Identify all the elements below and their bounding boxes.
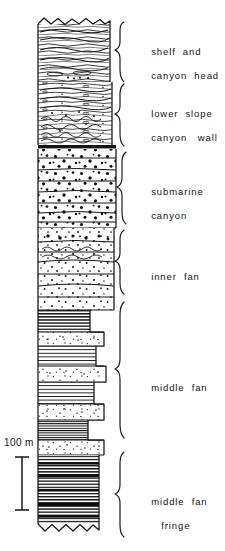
brace-submarine-canyon — [117, 152, 126, 224]
facies-label-line-1: middle fan — [151, 496, 207, 507]
facies-label-lower-slope-canyon-wall: lower slope canyon wall — [137, 96, 218, 156]
brace-middle-fan-fringe — [115, 452, 124, 537]
stratigraphic-figure: 100 m shelf and canyon head lower slope … — [0, 0, 225, 551]
facies-label-line-1: shelf and — [151, 46, 201, 57]
erosional-base-boundary — [38, 524, 99, 531]
facies-brace-group — [115, 22, 126, 537]
facies-label-line-1: middle fan — [151, 382, 207, 393]
facies-body-middle-fan-fringe — [38, 455, 99, 531]
marker-bed-dark — [38, 145, 116, 148]
brace-lower-slope-canyon-wall — [115, 84, 124, 146]
facies-label-line-2: canyon head — [151, 70, 219, 81]
facies-label-line-1: inner fan — [151, 271, 200, 282]
facies-label-line-2: canyon wall — [151, 132, 218, 143]
facies-label-inner-fan: inner fan — [137, 259, 200, 295]
facies-label-shelf-and-canyon-head: shelf and canyon head — [137, 34, 219, 94]
facies-label-submarine-canyon: submarine canyon — [137, 174, 204, 234]
facies-label-middle-fan: middle fan — [137, 370, 208, 406]
facies-label-line-1: lower slope — [151, 108, 213, 119]
facies-label-line-2: canyon — [151, 210, 187, 221]
facies-body-submarine-canyon — [38, 149, 116, 228]
scale-bar-label: 100 m — [4, 437, 34, 448]
facies-label-middle-fan-fringe: middle fan fringe — [137, 484, 208, 544]
facies-body-shelf-and-canyon-head — [38, 18, 110, 82]
facies-body-middle-fan — [38, 310, 106, 455]
brace-middle-fan — [115, 302, 124, 438]
facies-body-inner-fan — [38, 228, 114, 310]
erosional-top-boundary — [38, 18, 110, 25]
brace-shelf-and-canyon-head — [115, 22, 124, 82]
scale-bar — [15, 457, 29, 510]
facies-body-lower-slope-canyon-wall — [38, 82, 116, 148]
brace-inner-fan — [115, 230, 124, 294]
facies-label-line-2: fringe — [151, 520, 190, 531]
facies-label-line-1: submarine — [151, 186, 203, 197]
